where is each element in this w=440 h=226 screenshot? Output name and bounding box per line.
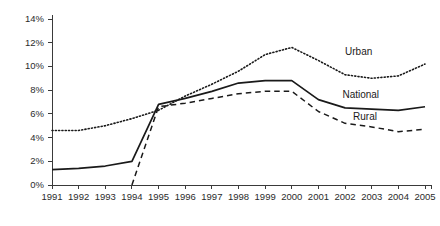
x-tick-label: 2001	[308, 191, 329, 202]
x-tick-label: 1993	[95, 191, 116, 202]
series-annotations: UrbanNationalRural	[342, 46, 379, 122]
y-tick-label: 2%	[30, 155, 44, 166]
y-axis-ticks: 0%2%4%6%8%10%12%14%	[25, 13, 52, 190]
x-tick-label: 1994	[121, 191, 142, 202]
chart-container: 0%2%4%6%8%10%12%14% 19911992199319941995…	[0, 0, 440, 226]
x-axis-ticks: 1991199219931994199519961997199819992000…	[41, 185, 435, 202]
y-tick-label: 0%	[30, 179, 44, 190]
y-tick-label: 4%	[30, 132, 44, 143]
x-tick-label: 2004	[388, 191, 409, 202]
y-tick-label: 8%	[30, 84, 44, 95]
y-tick-label: 12%	[25, 37, 45, 48]
x-tick-label: 1991	[41, 191, 62, 202]
x-tick-label: 2005	[414, 191, 435, 202]
x-tick-label: 1992	[68, 191, 89, 202]
series-label-rural: Rural	[353, 111, 377, 122]
y-tick-label: 10%	[25, 60, 45, 71]
y-tick-label: 6%	[30, 108, 44, 119]
x-tick-label: 2002	[335, 191, 356, 202]
series-label-urban: Urban	[345, 46, 372, 57]
x-tick-label: 2003	[361, 191, 382, 202]
line-chart: 0%2%4%6%8%10%12%14% 19911992199319941995…	[0, 0, 440, 226]
x-tick-label: 1999	[255, 191, 276, 202]
series-label-national: National	[342, 89, 379, 100]
x-tick-label: 1996	[175, 191, 196, 202]
x-tick-label: 1998	[228, 191, 249, 202]
x-tick-label: 1997	[201, 191, 222, 202]
x-tick-label: 1995	[148, 191, 169, 202]
series-line-rural	[132, 91, 425, 185]
y-tick-label: 14%	[25, 13, 45, 24]
x-tick-label: 2000	[281, 191, 302, 202]
